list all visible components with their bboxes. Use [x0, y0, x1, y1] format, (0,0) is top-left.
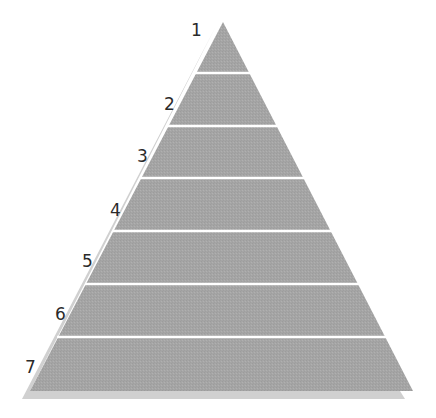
level-label-5: 5	[82, 251, 93, 271]
level-label-6: 6	[55, 304, 66, 324]
level-label-7: 7	[25, 357, 36, 377]
level-label-2: 2	[164, 94, 175, 114]
pyramid-body	[30, 22, 413, 391]
level-label-3: 3	[137, 146, 148, 166]
level-label-1: 1	[191, 20, 202, 40]
pyramid-diagram: 1 2 3 4 5 6 7	[0, 0, 436, 418]
level-label-4: 4	[110, 200, 121, 220]
